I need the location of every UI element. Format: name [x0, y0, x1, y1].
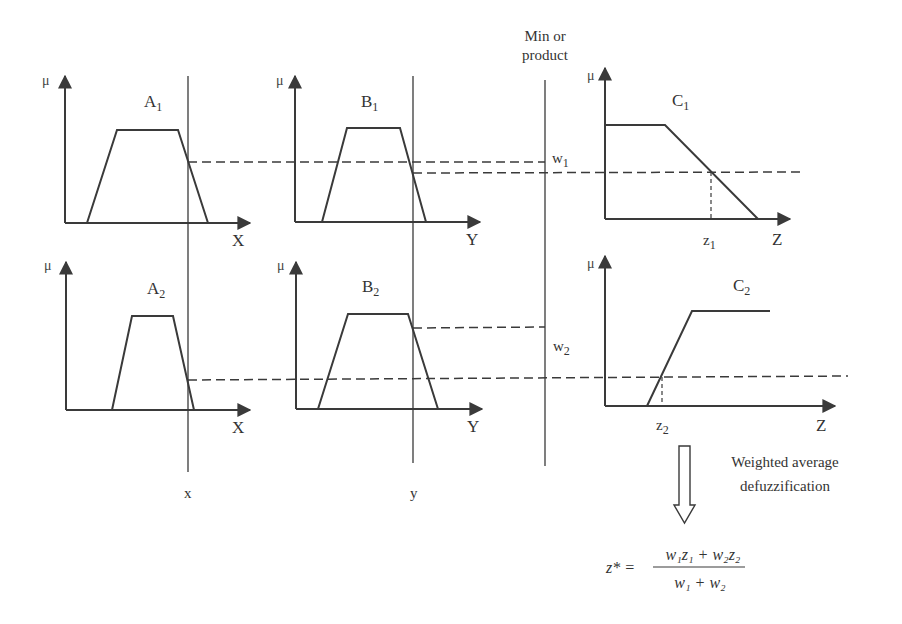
w2-label: w2 — [553, 338, 570, 358]
mu-label: μ — [42, 73, 50, 88]
defuzz-caption-1: Weighted average — [731, 454, 839, 470]
mu-label: μ — [276, 73, 284, 88]
panel-b1: μ Y B1 — [276, 73, 803, 249]
panel-a2: μ X A2 — [44, 258, 848, 437]
defuzz-arrow-icon — [674, 446, 695, 523]
mu-label: μ — [587, 68, 595, 83]
panel-c2: μ Z C2 z2 — [587, 256, 835, 437]
membership-b1 — [322, 128, 426, 222]
mu-label: μ — [44, 258, 52, 273]
set-label-a1: A1 — [144, 92, 162, 114]
mu-label: μ — [277, 258, 285, 273]
set-label-b1: B1 — [361, 92, 378, 114]
axis-label: X — [232, 231, 244, 250]
alpha-cut-b2 — [413, 327, 545, 328]
set-label-b2: B2 — [362, 277, 379, 299]
axis-label: Z — [816, 416, 826, 435]
membership-a1 — [87, 130, 208, 223]
formula-numerator: w₁z₁ + w₂z₂ — [666, 546, 741, 563]
mu-label: μ — [587, 256, 595, 271]
panel-b2: μ Y B2 — [277, 258, 545, 436]
axis-label: Y — [467, 417, 479, 436]
set-label-a2: A2 — [147, 279, 165, 301]
input-y-label: y — [410, 485, 418, 501]
axis-label: Y — [466, 230, 478, 249]
axis-label: X — [232, 418, 244, 437]
fuzzy-inference-diagram: Min or product μ X A1 μ Y B1 w1 μ Z C1 z… — [0, 0, 902, 624]
set-label-c1: C1 — [672, 91, 689, 113]
w1-label: w1 — [552, 150, 569, 170]
z2-label: z2 — [656, 417, 669, 437]
min-product-label-1: Min or — [524, 28, 565, 44]
formula-lhs: z* = — [605, 559, 635, 576]
z1-label: z1 — [703, 232, 716, 252]
set-label-c2: C2 — [733, 276, 750, 298]
min-product-label-2: product — [522, 47, 569, 63]
defuzz-caption-2: defuzzification — [740, 478, 830, 494]
axis-label: Z — [772, 230, 782, 249]
alpha-cut-b1 — [413, 172, 803, 173]
membership-a2 — [112, 316, 194, 410]
formula-denominator: w₁ + w₂ — [674, 574, 726, 591]
panel-a1: μ X A1 — [42, 73, 545, 250]
panel-c1: μ Z C1 z1 — [587, 68, 790, 252]
membership-c2 — [647, 311, 770, 406]
input-x-label: x — [184, 485, 192, 501]
alpha-cut-a2 — [188, 376, 848, 380]
